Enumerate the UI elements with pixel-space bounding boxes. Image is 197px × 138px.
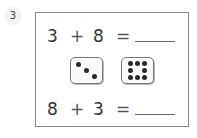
die-pip bbox=[142, 68, 147, 73]
addend-1: 8 bbox=[47, 99, 70, 119]
equals-sign: = bbox=[116, 26, 133, 46]
answer-blank-2[interactable] bbox=[135, 113, 175, 115]
equals-sign: = bbox=[116, 99, 133, 119]
answer-blank-1[interactable] bbox=[135, 40, 175, 42]
die-pip bbox=[128, 75, 133, 80]
die-pip bbox=[84, 68, 89, 73]
die-pip bbox=[135, 61, 140, 66]
die-pip bbox=[92, 74, 97, 79]
addend-2: 8 bbox=[93, 26, 116, 46]
die-pip bbox=[128, 68, 133, 73]
die-three-icon bbox=[70, 57, 103, 84]
exercise-box: 3 + 8 = 8 + 3 = bbox=[35, 12, 189, 127]
addend-2: 3 bbox=[93, 99, 116, 119]
die-pip bbox=[142, 61, 147, 66]
die-pip bbox=[76, 62, 81, 67]
equation-1: 3 + 8 = bbox=[47, 26, 175, 46]
equation-2: 8 + 3 = bbox=[47, 99, 175, 119]
die-pip bbox=[128, 61, 133, 66]
addend-1: 3 bbox=[47, 26, 70, 46]
plus-sign: + bbox=[70, 26, 93, 46]
die-eight-icon bbox=[121, 57, 154, 84]
die-pip bbox=[142, 75, 147, 80]
die-pip bbox=[135, 75, 140, 80]
question-number: 3 bbox=[4, 7, 22, 25]
plus-sign: + bbox=[70, 99, 93, 119]
